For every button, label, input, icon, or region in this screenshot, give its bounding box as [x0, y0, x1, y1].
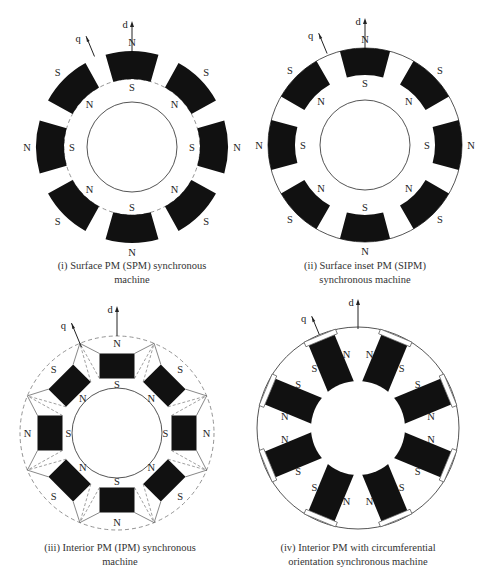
caption-spm: (i) Surface PM (SPM) synchronous machine: [22, 259, 242, 287]
flux-barrier-line: [27, 451, 37, 471]
pole-label: N: [366, 496, 374, 507]
pole-label-inner: N: [171, 99, 179, 110]
pole-label: S: [399, 482, 405, 493]
pole-label-outer: S: [437, 65, 443, 76]
q-axis-arrow-icon: [86, 36, 90, 42]
pole-label-outer: S: [203, 216, 209, 227]
flux-barrier-line: [154, 502, 161, 523]
d-axis-arrow-icon: [363, 18, 367, 24]
magnet-pole: [268, 120, 297, 170]
pole-label: N: [281, 411, 289, 422]
flux-barrier-line: [186, 470, 207, 477]
d-axis-arrow-icon: [130, 21, 134, 27]
pole-label-inner: N: [405, 183, 413, 194]
d-axis-label: d: [355, 16, 361, 27]
pole-label: N: [343, 349, 351, 360]
pole-label-outer: N: [113, 338, 121, 349]
flux-barrier-line: [80, 343, 100, 353]
pole-label-outer: N: [203, 428, 211, 439]
d-axis-arrow-icon: [356, 299, 360, 305]
pole-label-inner: S: [114, 476, 120, 487]
caption-spm-line1: (i) Surface PM (SPM) synchronous: [22, 259, 242, 273]
magnet-pole: [340, 213, 390, 242]
flux-barrier-line: [73, 502, 80, 523]
caption-circumferential-line2: orientation synchronous machine: [248, 555, 468, 569]
pole-label-inner: S: [362, 202, 368, 213]
pole-label-outer: S: [287, 65, 293, 76]
pole-label: N: [427, 411, 435, 422]
rotor-surface-dashed-circle: [64, 79, 200, 215]
caption-ipm-line2: machine: [10, 555, 230, 569]
flux-barrier-line: [80, 513, 100, 523]
q-axis-label: q: [301, 313, 307, 324]
pole-label-outer: N: [128, 247, 136, 258]
circumferential-pm-machine-diagram: NNSSNNSSNNSSNNSSdq: [257, 297, 459, 530]
shaft-circle: [320, 100, 410, 190]
q-axis-label: q: [61, 320, 67, 331]
caption-circumferential: (iv) Interior PM with circumferential or…: [248, 541, 468, 569]
interior-magnet: [172, 416, 197, 451]
pole-label-inner: N: [405, 96, 413, 107]
pole-label-inner: S: [114, 379, 120, 390]
pole-label-outer: S: [55, 67, 61, 78]
caption-spm-line2: machine: [22, 273, 242, 287]
flux-barrier-line: [27, 389, 48, 396]
pole-label-inner: N: [79, 393, 87, 404]
caption-circumferential-line1: (iv) Interior PM with circumferential: [248, 541, 468, 555]
pole-label-outer: N: [233, 142, 241, 153]
pole-label-inner: N: [317, 96, 325, 107]
flux-barrier-line: [186, 389, 207, 396]
pole-label: N: [427, 434, 435, 445]
q-axis-label: q: [75, 33, 81, 44]
pole-label-outer: N: [24, 428, 32, 439]
magnet-pole: [433, 120, 462, 170]
d-axis-label: d: [348, 297, 354, 308]
pole-label-inner: S: [129, 82, 135, 93]
pole-label-outer: N: [113, 517, 121, 528]
interior-magnet: [100, 354, 135, 379]
magnet-pole: [106, 212, 159, 243]
pole-label-outer: N: [361, 246, 369, 257]
flux-barrier-line: [73, 343, 80, 364]
d-axis-label: d: [122, 19, 128, 30]
sipm-machine-diagram: NSSNNSSNNSSNNSSNdq: [255, 16, 475, 257]
q-axis-arrow-icon: [319, 33, 323, 39]
pole-label-outer: S: [177, 364, 183, 375]
flux-barrier-line: [27, 396, 37, 416]
pole-label-outer: S: [51, 364, 57, 375]
pole-label: S: [295, 379, 301, 390]
magnet-pole: [36, 121, 67, 174]
flux-barrier-line: [197, 451, 207, 471]
ipm-machine-diagram: NSSNNSSNNSSNNSSNdq: [20, 304, 214, 531]
caption-ipm: (iii) Interior PM (IPM) synchronous mach…: [10, 541, 230, 569]
pole-label: S: [415, 466, 421, 477]
pole-label: S: [399, 363, 405, 374]
pole-label-inner: S: [424, 140, 430, 151]
q-axis-arrow-icon: [312, 316, 316, 322]
pole-label-inner: N: [317, 183, 325, 194]
pole-label-outer: N: [467, 140, 475, 151]
pole-label-inner: S: [300, 140, 306, 151]
pole-label-inner: N: [86, 184, 94, 195]
pole-label-inner: S: [362, 78, 368, 89]
interior-magnet: [38, 416, 63, 451]
pole-label-outer: N: [255, 140, 263, 151]
q-axis-arrow-icon: [71, 323, 75, 329]
pole-label-outer: S: [177, 491, 183, 502]
shaft-circle: [311, 381, 405, 475]
pole-label-inner: N: [147, 393, 155, 404]
flux-barrier-line: [135, 513, 155, 523]
pole-label: N: [366, 349, 374, 360]
caption-sipm: (ii) Surface inset PM (SIPM) synchronous…: [255, 259, 475, 287]
pole-label: S: [312, 363, 318, 374]
magnet-pole: [106, 51, 159, 82]
caption-sipm-line1: (ii) Surface inset PM (SIPM): [255, 259, 475, 273]
pole-label-outer: N: [23, 142, 31, 153]
shaft-circle: [87, 102, 177, 192]
pole-label: S: [415, 379, 421, 390]
flux-barrier-line: [135, 343, 155, 353]
pole-label-inner: N: [86, 99, 94, 110]
flux-barrier-line: [197, 396, 207, 416]
flux-barrier-line: [154, 343, 161, 364]
interior-magnet: [100, 488, 135, 513]
